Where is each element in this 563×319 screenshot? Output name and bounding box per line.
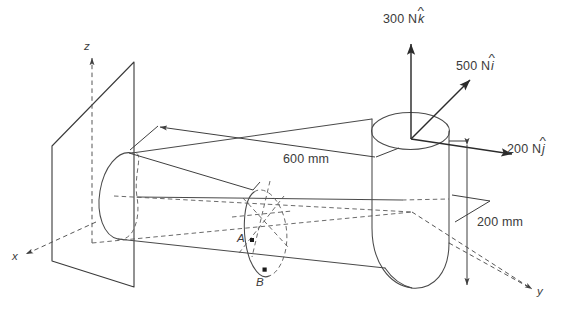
dimension-600mm — [129, 126, 399, 190]
dimension-label-200mm: 200 mm — [477, 216, 523, 229]
force-500n-unit-vector: i — [490, 60, 494, 73]
force-label-500n: 500 Ni — [456, 60, 494, 73]
axis-label-y: y — [537, 286, 543, 298]
force-label-200n: 200 Nj — [507, 143, 545, 156]
point-label-a: A — [237, 233, 245, 245]
force-200n-magnitude: 200 N — [507, 142, 541, 156]
axis-label-z: z — [84, 41, 90, 53]
axis-label-x: x — [12, 251, 18, 263]
horizontal-pipe — [99, 119, 402, 268]
wall-plane — [52, 62, 134, 287]
dimension-200mm — [449, 141, 490, 285]
force-300n-magnitude: 300 N — [383, 12, 417, 26]
x-axis — [26, 222, 96, 254]
force-label-300n: 300 Nk — [383, 13, 425, 26]
force-300n-unit-vector: k — [417, 13, 424, 26]
dimension-label-600mm: 600 mm — [283, 153, 329, 166]
point-label-b: B — [256, 277, 264, 289]
force-arrow-500n — [411, 80, 470, 139]
pipe-centerline — [92, 196, 412, 243]
pipe-force-diagram: z x y 300 Nk 500 Ni 200 Nj 600 mm 200 mm… — [0, 0, 563, 319]
force-200n-unit-vector: j — [541, 143, 545, 156]
force-500n-magnitude: 500 N — [456, 59, 490, 73]
